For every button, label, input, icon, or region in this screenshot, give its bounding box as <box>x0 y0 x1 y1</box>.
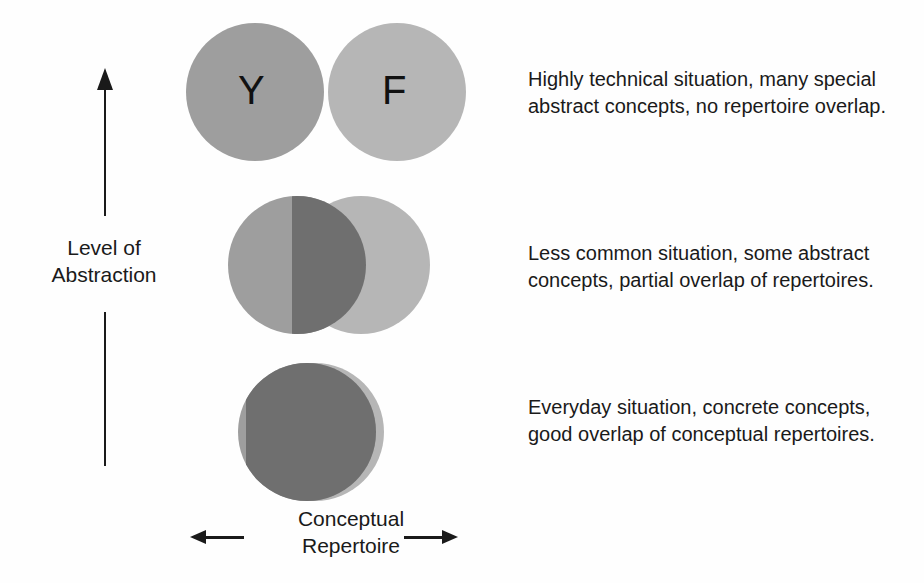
arrow-left-icon <box>190 530 244 544</box>
vertical-axis-label: Level of Abstraction <box>10 234 198 288</box>
circle-y-label: Y <box>238 70 265 110</box>
overlap-lens-middle <box>292 196 366 334</box>
caption-top: Highly technical situation, many special… <box>528 66 920 120</box>
arrow-up-icon <box>97 68 113 90</box>
arrow-right-icon <box>404 530 458 544</box>
caption-bottom: Everyday situation, concrete concepts, g… <box>528 394 920 448</box>
overlap-lens-bottom <box>246 363 376 501</box>
vertical-axis-line-lower <box>104 312 106 466</box>
abstraction-repertoire-diagram: Level of Abstraction Y F Conceptual Repe… <box>0 0 924 583</box>
caption-middle: Less common situation, some abstract con… <box>528 240 920 294</box>
vertical-axis-line-upper <box>104 88 106 216</box>
circle-f-label: F <box>382 70 406 110</box>
